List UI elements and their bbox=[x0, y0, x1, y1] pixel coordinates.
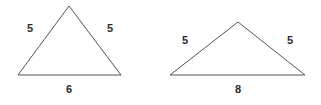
triangle-left-side-label-left: 5 bbox=[27, 22, 33, 34]
triangle-right-base-label: 8 bbox=[235, 83, 241, 95]
triangle-left-side-label-right: 5 bbox=[107, 22, 113, 34]
isosceles-triangle-right-outline bbox=[170, 22, 305, 75]
geometry-figure-canvas: 5 5 6 5 5 8 bbox=[0, 0, 321, 105]
triangle-right-side-label-left: 5 bbox=[182, 34, 188, 46]
triangle-left-base-label: 6 bbox=[66, 83, 72, 95]
isosceles-triangle-left-outline bbox=[18, 6, 121, 75]
triangle-right-side-label-right: 5 bbox=[287, 34, 293, 46]
